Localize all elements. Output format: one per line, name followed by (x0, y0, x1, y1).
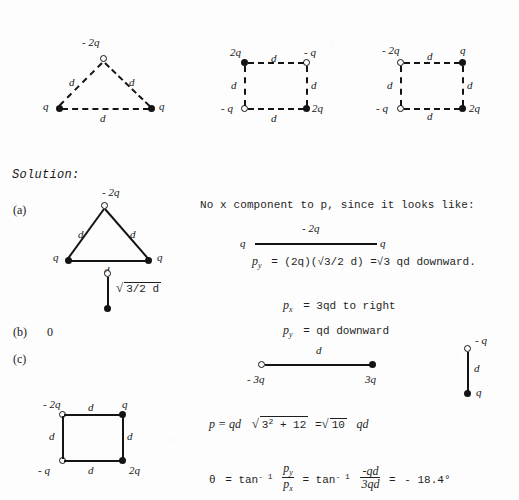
bond-bottom (248, 108, 304, 110)
sqrt-icon: √ (252, 416, 259, 431)
charge-label-bottom-left: - q (376, 102, 388, 114)
bond-right (462, 66, 464, 106)
radicand-expression: 32 + 12 (260, 416, 308, 431)
edge-label-left: d (69, 76, 75, 88)
result-radicand: 10 (330, 418, 347, 431)
charge-label-top: - 2q (102, 186, 119, 198)
charge-label-bottom-left: q (43, 100, 49, 112)
dipole-label-left: - 3q (247, 373, 264, 385)
charge-label-bottom-right: 2q (312, 102, 323, 114)
note-line-no-x-component: No x component to p, since it looks like… (200, 199, 475, 211)
note-text: No x component to p, since it looks like… (200, 199, 475, 211)
dipole-marker-top (464, 345, 471, 352)
equals-sign-final: = (389, 474, 396, 486)
charge-marker-top-right (459, 59, 466, 66)
sketch-label-left: q (240, 237, 246, 249)
fraction-numerator: -qd (360, 465, 380, 479)
equals-tan-1: = tan (225, 474, 258, 486)
edge-label-bottom: d (100, 112, 106, 124)
px-subscript: x (289, 484, 293, 493)
charge-label-top-left: - 2q (382, 44, 399, 56)
tan-exponent-2: - 1 (335, 472, 349, 481)
sketch-label-center: - 2q (302, 222, 319, 234)
edge-label-right: d (467, 79, 473, 91)
edge-label-top: d (271, 52, 277, 64)
fraction-qd-over-3qd: -qd 3qd (360, 465, 380, 491)
figure-dipole-horizontal-c: d - 3q 3q (248, 344, 413, 384)
edge-label-top: d (88, 401, 94, 413)
dipole-bond (265, 364, 371, 366)
figure-triangle-problem: - 2q d d d q q (40, 36, 170, 126)
part-label-b: (b) (13, 325, 27, 340)
part-label-c: (c) (13, 352, 26, 367)
tan-exponent: - 1 (258, 472, 272, 481)
edge-label-bottom: d (427, 110, 433, 122)
result-suffix: qd (356, 417, 368, 431)
charge-marker-bottom-right (303, 105, 310, 112)
charge-marker-top-right (303, 59, 310, 66)
charge-label-top: - 2q (82, 36, 99, 48)
figure-triangle-solution: - 2q d d d q q (56, 186, 186, 276)
dipole-marker-bottom (104, 305, 111, 312)
edge-label-right: d (129, 76, 135, 88)
edge-label-bottom: d (271, 112, 277, 124)
charge-label-bottom-right: q (157, 251, 163, 263)
dipole-bond (107, 277, 109, 306)
theta-symbol: θ (209, 474, 216, 486)
dipole-marker-top (104, 270, 111, 277)
solution-heading: Solution: (12, 168, 80, 182)
figure-dipole-vertical-c: - q d q (462, 336, 512, 404)
figure-collinear-sketch: - 2q q q (240, 222, 420, 252)
dipole-edge-label: d (316, 344, 322, 356)
edge-label-top: d (427, 50, 433, 62)
bond-left (59, 62, 103, 106)
charge-label-top-left: - 2q (43, 398, 60, 410)
bond-top (404, 62, 460, 64)
edge-label-left: d (387, 79, 393, 91)
sqrt-icon: √ (116, 280, 123, 295)
sketch-label-right: q (380, 237, 386, 249)
charge-label-bottom-left: q (53, 251, 59, 263)
radicand-rest: + 12 (280, 419, 306, 431)
charge-label-top-right: q (460, 44, 466, 56)
fraction-denominator: 3qd (360, 478, 380, 491)
charge-marker-bottom-right (459, 105, 466, 112)
bond-left (244, 66, 246, 106)
figure-square-solution: d d d d - 2q q - q 2q (30, 388, 160, 483)
radicand: 3/2 d (124, 282, 161, 295)
charge-marker-bottom-left (397, 105, 404, 112)
bond-top (64, 414, 121, 416)
bond-bottom (64, 460, 121, 462)
py-rhs: = (2q)(√3/2 d) =√3 qd downward. (271, 256, 476, 268)
edge-label-left: d (78, 228, 84, 240)
fraction-numerator: py (282, 462, 294, 478)
dipole-marker-bottom (464, 390, 471, 397)
bond-right (104, 208, 149, 259)
magnitude-prefix: p = qd (209, 417, 241, 431)
part-answer-b: 0 (47, 325, 53, 340)
py-subscript: y (289, 468, 293, 477)
edge-label-right: d (127, 430, 133, 442)
edge-label-left: d (231, 79, 237, 91)
dipole-label-right: 3q (365, 373, 376, 385)
bond-left (67, 208, 105, 259)
charge-label-top-right: - q (304, 46, 316, 58)
py-rhs: = qd downward (303, 325, 389, 337)
charge-label-top-left: 2q (230, 46, 241, 58)
charge-label-top-right: q (122, 398, 128, 410)
equals-sign: = (315, 419, 322, 431)
figure-square-problem-2: d d d d - 2q q - q 2q (372, 36, 497, 126)
equation-dipole-magnitude: p = qd √32 + 12 =√10 qd (209, 416, 368, 432)
bond-right (104, 62, 150, 107)
figure-dipole-vertical-a: √3/2 d (98, 268, 178, 316)
bond-bottom (70, 260, 147, 262)
bond-right (306, 66, 308, 106)
equation-py-result: py = qd downward (283, 323, 389, 339)
bond-bottom (62, 108, 149, 110)
angle-result: - 18.4° (404, 474, 450, 486)
sqrt-icon-result: √ (322, 416, 329, 431)
charge-marker-bottom-left (241, 105, 248, 112)
edge-label-bottom: d (88, 464, 94, 476)
charge-label-bottom-left: - q (38, 464, 50, 476)
charge-label-bottom-left: - q (221, 102, 233, 114)
